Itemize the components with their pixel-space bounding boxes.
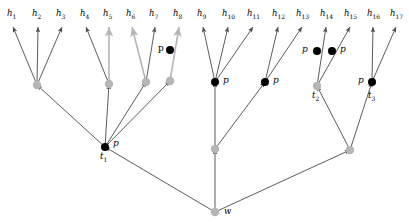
tree-edge-e_w_t1 xyxy=(105,147,215,212)
tree-edge-e_h7 xyxy=(146,27,155,82)
node-annotation-subscript: 1 xyxy=(103,156,107,163)
mutation-label-mut_h15: p xyxy=(340,45,346,54)
tree-node-t3[interactable] xyxy=(368,78,376,86)
leaf-label-subscript: 15 xyxy=(349,13,357,20)
leaf-label-subscript: 7 xyxy=(154,13,158,20)
tree-node-n_f[interactable] xyxy=(261,78,269,86)
tree-edge-e_h11 xyxy=(215,27,253,82)
tree-edge-e_r_t2 xyxy=(317,86,350,150)
leaf-label-subscript: 8 xyxy=(178,13,182,20)
leaf-label-h7: h7 xyxy=(149,9,158,20)
mutation-node-mut_h15[interactable] xyxy=(328,47,336,55)
node-annotation-base: p xyxy=(273,75,279,85)
tree-node-t1[interactable] xyxy=(101,143,109,151)
tree-edge-e_w_r xyxy=(215,150,350,212)
coalescent-tree-figure: h1h2h3h4h5h6h7h8h9h10h11h12h13h14h15h16h… xyxy=(0,0,409,223)
leaf-label-subscript: 5 xyxy=(108,13,112,20)
leaf-label-subscript: 17 xyxy=(395,13,403,20)
leaf-label-h14: h14 xyxy=(320,9,333,20)
leaf-label-subscript: 9 xyxy=(202,13,206,20)
leaf-label-h4: h4 xyxy=(80,9,89,20)
node-annotation-label_p_e: p xyxy=(223,76,229,85)
tree-node-t2[interactable] xyxy=(313,82,321,90)
tree-edge-e_t1_b xyxy=(105,84,109,147)
tree-edge-e_h1 xyxy=(13,27,37,85)
tree-node-w[interactable] xyxy=(211,208,219,216)
tree-node-n_mid[interactable] xyxy=(211,145,219,153)
node-annotation-label_p_f: p xyxy=(273,76,279,85)
node-annotation-subscript: 3 xyxy=(371,95,375,102)
mutation-node-mut_h8[interactable] xyxy=(166,46,174,54)
leaf-label-h9: h9 xyxy=(197,9,206,20)
leaf-label-h2: h2 xyxy=(32,9,41,20)
tree-edge-e_h3 xyxy=(37,27,62,85)
leaf-label-subscript: 12 xyxy=(277,13,285,20)
leaf-label-subscript: 16 xyxy=(372,13,380,20)
leaf-label-subscript: 6 xyxy=(131,13,135,20)
tree-node-n_d[interactable] xyxy=(166,77,174,85)
node-annotation-base: p xyxy=(113,138,119,148)
tree-edge-e_h4 xyxy=(86,27,109,84)
leaf-label-subscript: 14 xyxy=(325,13,333,20)
tree-edge-e_h12 xyxy=(265,27,278,82)
tree-edge-e_h10 xyxy=(215,27,228,82)
leaf-label-h6: h6 xyxy=(126,9,135,20)
mutation-label-mut_h14: p xyxy=(302,45,308,54)
leaf-label-h8: h8 xyxy=(173,9,182,20)
mutation-label-mut_h8: p xyxy=(158,44,164,53)
leaf-label-subscript: 2 xyxy=(37,13,41,20)
tree-node-n_c[interactable] xyxy=(142,78,150,86)
leaf-label-h16: h16 xyxy=(367,9,380,20)
tree-graphic xyxy=(0,0,409,223)
leaf-label-h1: h1 xyxy=(7,9,16,20)
tree-node-n_a[interactable] xyxy=(33,81,41,89)
edge-layer xyxy=(13,27,396,212)
tree-node-n_b[interactable] xyxy=(105,80,113,88)
tree-edge-e_h2 xyxy=(37,27,38,85)
node-annotation-label_t2: t2 xyxy=(312,91,319,102)
leaf-label-subscript: 3 xyxy=(61,13,65,20)
tree-node-n_e[interactable] xyxy=(211,78,219,86)
leaf-label-h17: h17 xyxy=(390,9,403,20)
leaf-label-subscript: 13 xyxy=(301,13,309,20)
leaf-label-h11: h11 xyxy=(247,9,260,20)
node-annotation-label_t3: t3 xyxy=(368,91,375,102)
tree-edge-e_h16 xyxy=(372,27,373,82)
tree-edge-e_t1_c xyxy=(105,82,146,147)
mutation-node-mut_h14[interactable] xyxy=(313,47,321,55)
node-annotation-label_p_t3: p xyxy=(358,76,364,85)
node-annotation-label_t1: t1 xyxy=(100,152,107,163)
node-annotation-subscript: 2 xyxy=(315,95,319,102)
leaf-label-h5: h5 xyxy=(103,9,112,20)
node-annotation-base: w xyxy=(224,206,231,216)
leaf-label-h13: h13 xyxy=(296,9,309,20)
node-annotation-label_p_t1: p xyxy=(113,139,119,148)
tree-edge-e_t1_a xyxy=(37,85,105,147)
tree-node-n_rt[interactable] xyxy=(346,146,354,154)
leaf-label-h15: h15 xyxy=(344,9,357,20)
leaf-label-subscript: 4 xyxy=(85,13,89,20)
tree-edge-e_h17 xyxy=(372,27,396,82)
leaf-label-subscript: 1 xyxy=(12,13,16,20)
node-annotation-base: p xyxy=(223,75,229,85)
node-annotation-base: p xyxy=(358,75,364,85)
tree-edge-e_h6 xyxy=(132,27,146,82)
tree-edge-e_m_f xyxy=(215,82,265,149)
leaf-label-subscript: 11 xyxy=(252,13,260,20)
leaf-label-h10: h10 xyxy=(222,9,235,20)
node-annotation-label_w: w xyxy=(224,207,231,216)
tree-edge-e_h9 xyxy=(203,27,215,82)
leaf-label-h3: h3 xyxy=(56,9,65,20)
leaf-label-subscript: 10 xyxy=(227,13,235,20)
tree-edge-e_h8 xyxy=(170,27,179,81)
node-layer xyxy=(33,46,376,216)
tree-edge-e_h13 xyxy=(265,27,302,82)
leaf-label-h12: h12 xyxy=(272,9,285,20)
